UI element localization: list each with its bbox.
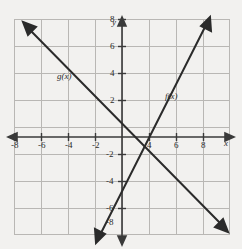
x-tick-label-6: 6 <box>174 141 179 150</box>
y-axis <box>118 17 126 245</box>
x-tick-label-neg8: -8 <box>11 141 19 150</box>
x-tick-label-neg2: -2 <box>92 141 100 150</box>
y-tick-label-4: 4 <box>110 69 115 78</box>
x-tick-label-neg6: -6 <box>38 141 46 150</box>
y-tick-label-neg2: -2 <box>106 150 114 159</box>
y-tick-label-neg8: -8 <box>106 218 114 227</box>
f-of-x-lower-arrowhead <box>95 229 105 243</box>
y-axis-bottom-arrowhead <box>118 236 126 245</box>
graph-canvas <box>0 0 242 249</box>
y-tick-label-6: 6 <box>110 42 115 51</box>
x-tick-label-8: 8 <box>201 141 206 150</box>
coordinate-plane-figure: -8 -6 -4 -2 4 6 8 8 6 4 2 -2 -4 -6 -8 x … <box>0 0 242 249</box>
curve-label-f-of-x: f(x) <box>165 92 178 101</box>
y-tick-label-neg4: -4 <box>106 177 114 186</box>
y-tick-label-neg6: -6 <box>106 204 114 213</box>
y-axis-label: y <box>112 18 116 27</box>
curve-label-g-of-x: g(x) <box>57 72 72 81</box>
x-tick-label-4: 4 <box>147 141 152 150</box>
y-tick-label-2: 2 <box>110 96 115 105</box>
y-axis-top-arrowhead <box>118 17 126 26</box>
x-tick-label-neg4: -4 <box>65 141 73 150</box>
x-axis-label: x <box>224 139 228 148</box>
